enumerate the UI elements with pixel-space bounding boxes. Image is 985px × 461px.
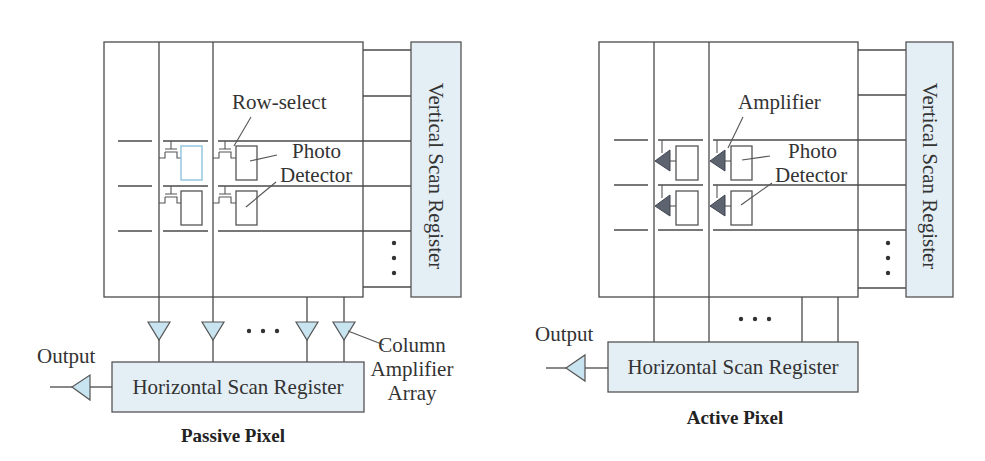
photo-detector [181, 191, 202, 225]
photo-detector [731, 191, 752, 225]
output-buffer-icon [72, 375, 90, 400]
column-amplifier-icon [333, 322, 355, 340]
ellipsis-dot [392, 256, 396, 260]
column-amplifier-icon [148, 322, 170, 340]
output-label: Output [37, 344, 96, 368]
column-amplifier-label-line1: Column [378, 333, 446, 357]
ellipsis-dot [275, 329, 279, 333]
row-select-label: Row-select [232, 90, 327, 114]
output-label: Output [535, 322, 594, 346]
photo-label: Photo [788, 139, 837, 163]
ellipsis-dot [392, 271, 396, 275]
detector-label: Detector [280, 163, 352, 187]
ellipsis-dot [753, 317, 757, 321]
column-amplifier-label-line3: Array [388, 381, 437, 405]
ellipsis-dot [247, 329, 251, 333]
horizontal-scan-register-label: Horizontal Scan Register [627, 355, 838, 379]
column-amplifier-icon [202, 322, 224, 340]
ellipsis-dot [886, 241, 890, 245]
ellipsis-dot [261, 329, 265, 333]
ellipsis-dot [392, 241, 396, 245]
photo-detector [676, 191, 698, 225]
active-pixel-caption: Active Pixel [687, 407, 784, 428]
photo-detector [731, 146, 752, 180]
passive-pixel-caption: Passive Pixel [181, 425, 285, 446]
photo-detector [676, 146, 698, 180]
ellipsis-dot [886, 271, 890, 275]
passive-pixel-diagram: Row-select Photo Detector Vertical Scan … [37, 42, 461, 446]
active-pixel-diagram: Amplifier Photo Detector Vertical Scan R… [535, 42, 953, 428]
output-buffer-icon [566, 355, 585, 381]
column-amplifier-label-line2: Amplifier [371, 357, 454, 381]
ellipsis-dot [886, 256, 890, 260]
ellipsis-dot [767, 317, 771, 321]
horizontal-scan-register-label: Horizontal Scan Register [132, 375, 343, 399]
column-amplifier-icon [296, 322, 318, 340]
photo-label: Photo [292, 139, 341, 163]
photo-detector [181, 146, 202, 180]
amplifier-label: Amplifier [738, 90, 821, 114]
vertical-scan-register-label: Vertical Scan Register [918, 83, 942, 270]
image-sensor-diagram: Row-select Photo Detector Vertical Scan … [0, 0, 985, 461]
vertical-scan-register-label: Vertical Scan Register [424, 83, 448, 270]
ellipsis-dot [739, 317, 743, 321]
photo-detector [236, 191, 257, 225]
detector-label: Detector [775, 163, 847, 187]
photo-detector [236, 146, 257, 180]
